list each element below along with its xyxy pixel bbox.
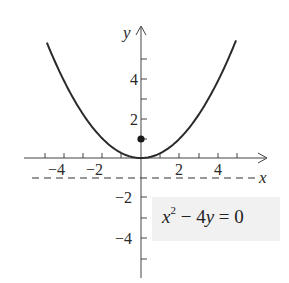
y-axis-label: y [121, 23, 131, 42]
x-tick-label: 4 [214, 161, 222, 178]
focus-point [137, 135, 144, 142]
x-tick-label: −2 [86, 161, 103, 178]
x-tick-label: −4 [48, 161, 65, 178]
y-tick-label: −4 [115, 230, 132, 247]
parabola-plot: −4 −2 2 4 4 2 −2 −4 x y [0, 0, 289, 283]
y-tick-label: 4 [130, 71, 138, 88]
y-tick-label: 2 [130, 111, 138, 128]
y-tick-label: −2 [115, 189, 132, 206]
equation-label: x2 − 4y = 0 [162, 204, 244, 228]
x-tick-label: 2 [175, 161, 183, 178]
y-ticks [141, 59, 147, 259]
x-axis-label: x [258, 168, 267, 187]
